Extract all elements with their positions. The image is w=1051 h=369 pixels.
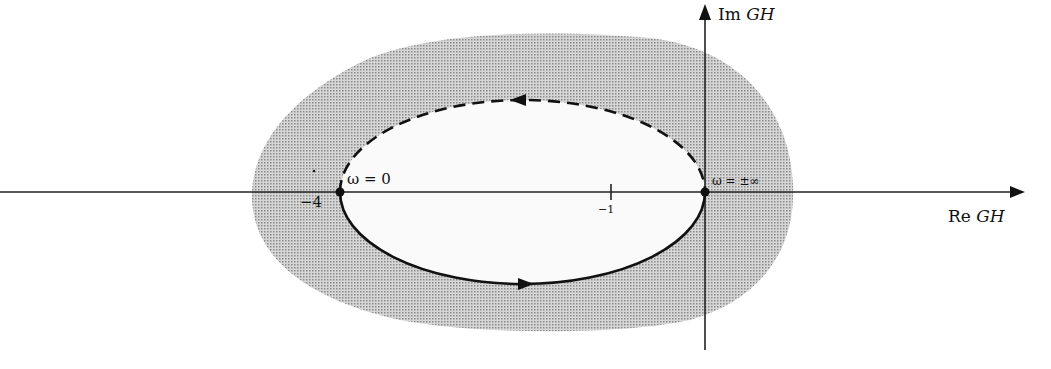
nyquist-diagram bbox=[0, 0, 1051, 369]
stray-dot bbox=[313, 170, 315, 172]
imaginary-axis-arrowhead-icon bbox=[699, 4, 711, 20]
y-axis-label-var: GH bbox=[746, 4, 774, 24]
y-axis-label: Im GH bbox=[718, 4, 775, 24]
x-axis-label-var: GH bbox=[976, 206, 1004, 226]
tick-label-minus-4: −4 bbox=[300, 193, 322, 211]
y-axis-label-prefix: Im bbox=[718, 4, 741, 24]
omega-zero-label: ω = 0 bbox=[347, 170, 391, 188]
x-axis-label: Re GH bbox=[948, 206, 1005, 226]
real-axis-arrowhead-icon bbox=[1010, 186, 1025, 198]
point-omega-infinity bbox=[701, 188, 710, 197]
x-axis-label-prefix: Re bbox=[948, 206, 971, 226]
tick-label-minus-1: −1 bbox=[598, 203, 614, 216]
point-omega-zero bbox=[336, 188, 345, 197]
omega-infinity-label: ω = ±∞ bbox=[712, 174, 760, 188]
